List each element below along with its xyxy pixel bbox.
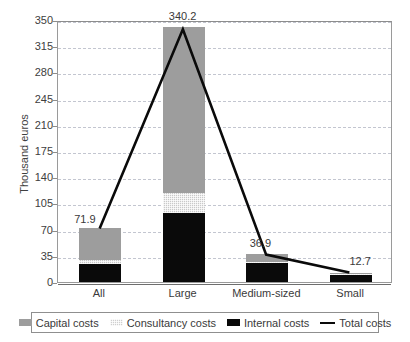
legend-item-internal-costs[interactable]: Internal costs bbox=[227, 317, 309, 329]
x-axis-tick-label: Small bbox=[336, 287, 364, 299]
total-line-swatch-icon bbox=[320, 322, 335, 324]
legend-item-total-costs[interactable]: Total costs bbox=[320, 317, 391, 329]
legend-label: Consultancy costs bbox=[127, 317, 216, 329]
consultancy-swatch-icon bbox=[110, 319, 123, 326]
x-axis-tick-label: Medium-sized bbox=[232, 287, 300, 299]
data-label-large: 340.2 bbox=[169, 10, 197, 22]
x-axis-tick-label: All bbox=[93, 287, 105, 299]
y-axis-tick-label: 315 bbox=[7, 41, 53, 52]
chart-container: Thousand euros 0357010514017521024528031… bbox=[0, 0, 410, 342]
y-axis-tick-label: 350 bbox=[7, 15, 53, 26]
data-label-all: 71.9 bbox=[74, 213, 95, 225]
capital-swatch-icon bbox=[19, 319, 32, 326]
y-axis-tick-label: 175 bbox=[7, 146, 53, 157]
internal-swatch-icon bbox=[227, 319, 240, 326]
data-label-medium-sized: 36.9 bbox=[250, 237, 271, 249]
y-axis-tick-label: 210 bbox=[7, 120, 53, 131]
legend-item-capital-costs[interactable]: Capital costs bbox=[19, 317, 99, 329]
y-axis-tick-label: 105 bbox=[7, 198, 53, 209]
total-costs-line bbox=[58, 22, 391, 282]
legend-item-consultancy-costs[interactable]: Consultancy costs bbox=[110, 317, 216, 329]
y-axis-tick-label: 280 bbox=[7, 67, 53, 78]
legend-label: Total costs bbox=[339, 317, 391, 329]
y-axis-tick-label: 35 bbox=[7, 251, 53, 262]
y-axis-tick-mark bbox=[52, 283, 57, 284]
legend-label: Internal costs bbox=[244, 317, 309, 329]
y-axis-tick-label: 245 bbox=[7, 94, 53, 105]
chart-legend: Capital costsConsultancy costsInternal c… bbox=[31, 312, 379, 333]
data-label-small: 12.7 bbox=[349, 255, 370, 267]
y-axis-tick-label: 0 bbox=[7, 277, 53, 288]
y-axis-tick-label: 140 bbox=[7, 172, 53, 183]
total-costs-polyline bbox=[100, 29, 350, 272]
y-axis-tick-label: 70 bbox=[7, 225, 53, 236]
legend-label: Capital costs bbox=[36, 317, 99, 329]
x-axis-tick-label: Large bbox=[169, 287, 197, 299]
gridline bbox=[58, 284, 391, 285]
plot-area bbox=[57, 21, 392, 283]
